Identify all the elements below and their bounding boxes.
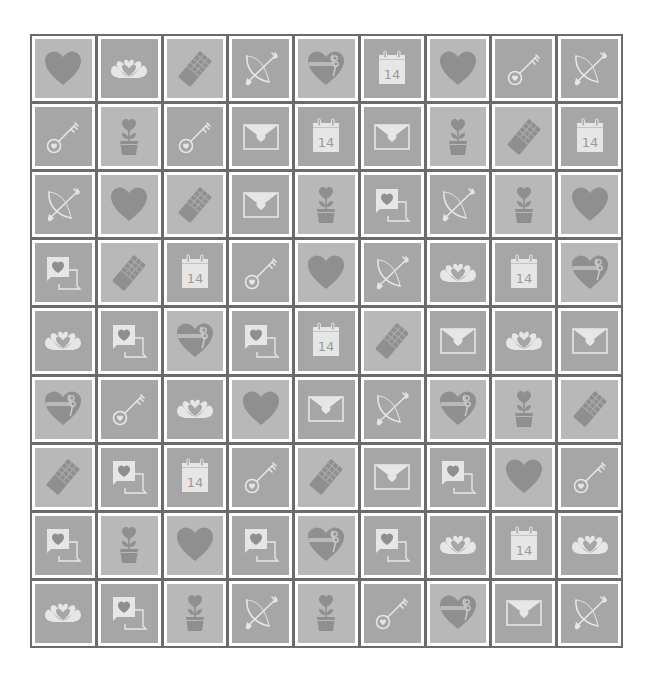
calendar-day-text: 14 <box>187 475 204 490</box>
board-cell[interactable] <box>558 581 621 646</box>
board-cell[interactable] <box>164 172 227 237</box>
love-chat-icon <box>370 183 414 227</box>
board-cell[interactable] <box>164 104 227 169</box>
heart-flower-pot-icon <box>502 387 546 431</box>
board-cell[interactable] <box>361 513 424 578</box>
board-cell[interactable] <box>229 513 292 578</box>
board-cell[interactable] <box>295 377 358 442</box>
board-cell[interactable] <box>32 104 95 169</box>
board-cell[interactable] <box>492 308 555 373</box>
board-cell[interactable] <box>229 36 292 101</box>
board-cell[interactable] <box>164 308 227 373</box>
board-cell[interactable] <box>361 445 424 510</box>
board-cell[interactable] <box>558 445 621 510</box>
board-cell[interactable] <box>98 377 161 442</box>
love-chat-icon <box>41 523 85 567</box>
board-cell[interactable] <box>32 308 95 373</box>
board-cell[interactable] <box>229 445 292 510</box>
board-cell[interactable] <box>98 308 161 373</box>
board-cell[interactable] <box>295 36 358 101</box>
board-tile: 14 <box>298 311 355 370</box>
board-cell[interactable] <box>32 172 95 237</box>
board-cell[interactable] <box>361 308 424 373</box>
board-cell[interactable] <box>427 513 490 578</box>
board-cell[interactable] <box>361 240 424 305</box>
board-cell[interactable] <box>558 513 621 578</box>
board-cell[interactable] <box>98 513 161 578</box>
board-cell[interactable]: 14 <box>558 104 621 169</box>
board-cell[interactable] <box>558 377 621 442</box>
board-cell[interactable] <box>98 240 161 305</box>
board-cell[interactable] <box>492 445 555 510</box>
board-cell[interactable]: 14 <box>361 36 424 101</box>
board-cell[interactable] <box>98 581 161 646</box>
board-cell[interactable] <box>98 445 161 510</box>
board-cell[interactable] <box>295 172 358 237</box>
board-cell[interactable] <box>295 445 358 510</box>
board-cell[interactable] <box>492 581 555 646</box>
board-cell[interactable] <box>229 377 292 442</box>
board-cell[interactable] <box>229 172 292 237</box>
board-cell[interactable] <box>427 377 490 442</box>
board-tile <box>298 448 355 507</box>
board-cell[interactable] <box>492 377 555 442</box>
board-tile <box>101 448 158 507</box>
board-cell[interactable] <box>361 104 424 169</box>
board-cell[interactable] <box>32 581 95 646</box>
board-cell[interactable] <box>229 581 292 646</box>
board-cell[interactable]: 14 <box>164 445 227 510</box>
board-cell[interactable] <box>492 104 555 169</box>
board-cell[interactable]: 14 <box>295 104 358 169</box>
board-cell[interactable] <box>427 240 490 305</box>
board-tile <box>298 39 355 98</box>
board-cell[interactable] <box>361 172 424 237</box>
board-tile <box>101 311 158 370</box>
board-cell[interactable] <box>427 581 490 646</box>
board-cell[interactable] <box>32 445 95 510</box>
board-cell[interactable] <box>295 240 358 305</box>
board-cell[interactable] <box>32 513 95 578</box>
board-tile <box>35 243 92 302</box>
board-tile <box>298 243 355 302</box>
board-cell[interactable] <box>558 308 621 373</box>
board-cell[interactable] <box>32 240 95 305</box>
board-tile <box>561 311 618 370</box>
board-cell[interactable] <box>427 36 490 101</box>
board-cell[interactable] <box>229 308 292 373</box>
board-cell[interactable] <box>164 377 227 442</box>
board-cell[interactable] <box>164 581 227 646</box>
board-cell[interactable]: 14 <box>295 308 358 373</box>
board-cell[interactable] <box>98 172 161 237</box>
board-cell[interactable] <box>32 36 95 101</box>
calendar-14-icon: 14 <box>173 251 217 295</box>
board-cell[interactable] <box>427 445 490 510</box>
heart-key-icon <box>568 455 612 499</box>
board-cell[interactable] <box>427 172 490 237</box>
board-tile <box>232 516 289 575</box>
board-cell[interactable]: 14 <box>492 240 555 305</box>
chocolate-bar-icon <box>502 115 546 159</box>
board-cell[interactable] <box>492 172 555 237</box>
board-cell[interactable]: 14 <box>164 240 227 305</box>
board-cell[interactable] <box>98 104 161 169</box>
board-cell[interactable] <box>492 36 555 101</box>
board-cell[interactable] <box>427 104 490 169</box>
board-cell[interactable] <box>361 581 424 646</box>
board-cell[interactable] <box>295 513 358 578</box>
board-cell[interactable] <box>427 308 490 373</box>
chocolate-bar-icon <box>41 455 85 499</box>
board-cell[interactable] <box>164 513 227 578</box>
board-cell[interactable] <box>32 377 95 442</box>
board-cell[interactable] <box>295 581 358 646</box>
love-letter-icon <box>370 115 414 159</box>
board-cell[interactable] <box>558 172 621 237</box>
board-cell[interactable] <box>229 104 292 169</box>
board-cell[interactable] <box>558 36 621 101</box>
board-cell[interactable] <box>164 36 227 101</box>
cupid-bow-icon <box>436 183 480 227</box>
board-cell[interactable] <box>361 377 424 442</box>
board-cell[interactable] <box>558 240 621 305</box>
board-cell[interactable] <box>98 36 161 101</box>
board-cell[interactable]: 14 <box>492 513 555 578</box>
board-cell[interactable] <box>229 240 292 305</box>
